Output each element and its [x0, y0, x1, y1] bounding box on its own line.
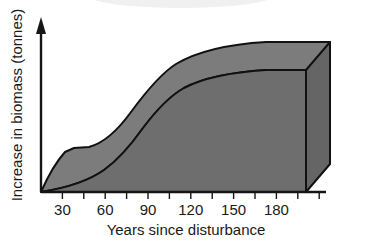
x-tick-label-30: 30 — [54, 201, 71, 218]
x-tick-label-120: 120 — [178, 201, 203, 218]
x-axis-title: Years since disturbance — [107, 221, 266, 238]
area-side-face — [306, 42, 330, 192]
biomass-area-chart: 30 60 90 120 150 180 Years since disturb… — [0, 0, 372, 242]
y-axis-arrowhead — [36, 17, 46, 34]
x-tick-label-90: 90 — [140, 201, 157, 218]
x-tick-label-180: 180 — [264, 201, 289, 218]
scan-artifact — [89, 0, 273, 8]
y-axis-title: Increase in biomass (tonnes) — [8, 9, 25, 202]
x-tick-label-60: 60 — [97, 201, 114, 218]
x-tick-label-150: 150 — [221, 201, 246, 218]
chart-figure: 30 60 90 120 150 180 Years since disturb… — [0, 0, 372, 242]
